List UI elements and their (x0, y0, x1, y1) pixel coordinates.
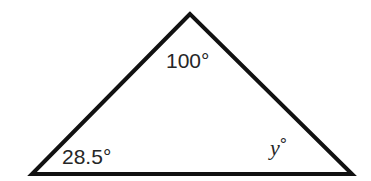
angle-label-bottom-right: y° (270, 136, 287, 159)
degree-symbol: ° (201, 49, 209, 72)
triangle-diagram (0, 0, 371, 181)
degree-symbol: ° (280, 135, 287, 155)
angle-bottom-left-value: 28.5 (62, 145, 103, 168)
angle-label-top: 100° (166, 50, 209, 71)
degree-symbol: ° (103, 145, 111, 168)
angle-top-value: 100 (166, 49, 201, 72)
angle-label-bottom-left: 28.5° (62, 146, 111, 167)
angle-bottom-right-variable: y (270, 135, 280, 160)
